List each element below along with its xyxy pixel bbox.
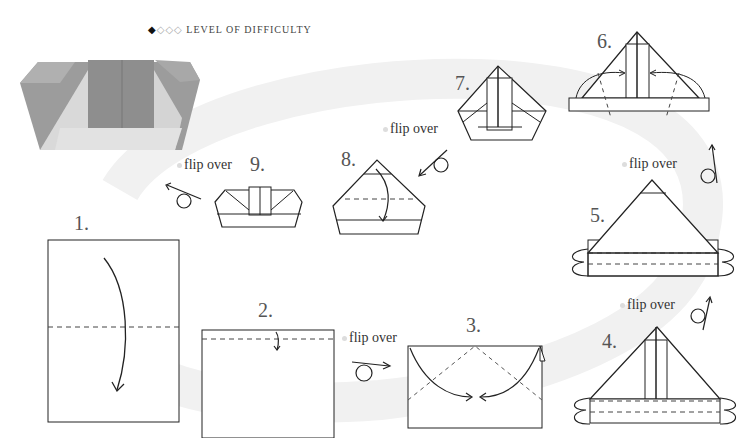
- flip-over-icon: [0, 0, 739, 438]
